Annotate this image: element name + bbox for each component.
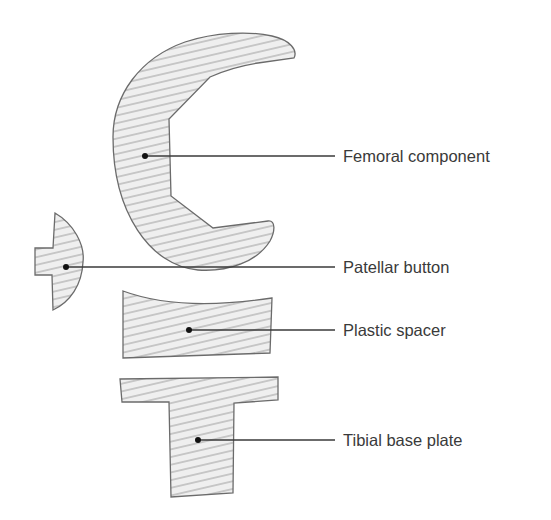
tibial-base-plate-shape (120, 377, 278, 497)
label-tibial-base-plate: Tibial base plate (343, 431, 463, 449)
anchor-dot (63, 264, 69, 270)
anchor-dot (195, 437, 201, 443)
label-plastic-spacer: Plastic spacer (343, 321, 446, 339)
leader-femoral (142, 153, 335, 159)
plastic-spacer-shape (123, 291, 272, 358)
label-patellar-button: Patellar button (343, 258, 449, 276)
label-femoral-component: Femoral component (343, 147, 490, 165)
knee-prosthesis-diagram: Femoral component Patellar button Plasti… (0, 0, 551, 520)
femoral-component-shape (113, 33, 295, 270)
anchor-dot (186, 327, 192, 333)
anchor-dot (142, 153, 148, 159)
patellar-button-shape (35, 213, 83, 310)
